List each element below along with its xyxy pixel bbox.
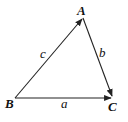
edge-label-a: a (61, 96, 68, 111)
edge-label-c: c (40, 46, 46, 61)
diagram-canvas: A B C c b a (0, 0, 128, 122)
vector-b-edge (83, 18, 112, 96)
vertex-label-a: A (76, 3, 86, 18)
vertex-label-c: C (108, 99, 117, 114)
vertex-label-b: B (4, 96, 14, 111)
edge-label-b: b (99, 45, 106, 60)
vector-triangle-diagram: A B C c b a (0, 0, 128, 122)
vector-c-edge (15, 19, 82, 98)
